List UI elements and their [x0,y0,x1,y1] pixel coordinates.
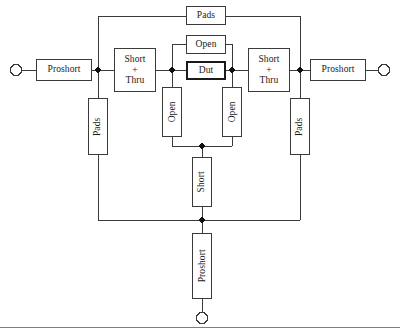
block-proshort-left-label: Proshort [48,65,81,75]
junction-node-a [95,67,100,72]
block-proshort-right[interactable]: Proshort [310,59,366,81]
block-pads-left[interactable]: Pads [88,98,108,155]
block-pads-right-label: Pads [295,117,305,135]
junction-node-b [169,67,174,72]
block-short-bottom[interactable]: Short [192,157,212,207]
block-open-left-label: Open [167,102,177,123]
block-proshort-bottom-label: Proshort [197,250,207,283]
block-proshort-right-label: Proshort [322,65,355,75]
block-short-thru-right-line2: + [266,65,271,76]
junction-node-f [199,217,204,222]
junction-node-c [229,67,234,72]
block-short-thru-left[interactable]: Short + Thru [114,48,156,92]
block-short-thru-right-line1: Short [258,54,279,65]
block-open-top-label: Open [196,40,217,50]
block-pads-right[interactable]: Pads [290,98,310,155]
block-open-right[interactable]: Open [222,87,242,137]
block-open-top[interactable]: Open [186,35,226,54]
junction-node-d [297,67,302,72]
junction-node-e [199,143,204,148]
circuit-diagram: Proshort Short + Thru Dut Short + Thru P… [0,0,400,331]
block-proshort-bottom[interactable]: Proshort [192,233,212,299]
block-pads-top-label: Pads [197,11,215,21]
block-open-left[interactable]: Open [162,87,182,137]
block-open-right-label: Open [227,102,237,123]
block-pads-top[interactable]: Pads [186,6,226,25]
block-dut-label: Dut [199,66,214,76]
block-short-thru-right[interactable]: Short + Thru [248,48,290,92]
block-short-thru-left-line2: + [132,65,137,76]
page-bottom-rule [0,327,400,328]
block-pads-left-label: Pads [93,117,103,135]
bottom-terminal-circle [197,313,208,324]
block-short-thru-left-line1: Short [124,54,145,65]
block-short-thru-left-line3: Thru [126,75,145,86]
block-short-bottom-label: Short [197,171,207,192]
block-dut[interactable]: Dut [186,61,226,80]
left-terminal-circle [11,65,22,76]
block-proshort-left[interactable]: Proshort [36,59,92,81]
right-terminal-circle [379,65,390,76]
block-short-thru-right-line3: Thru [260,75,279,86]
